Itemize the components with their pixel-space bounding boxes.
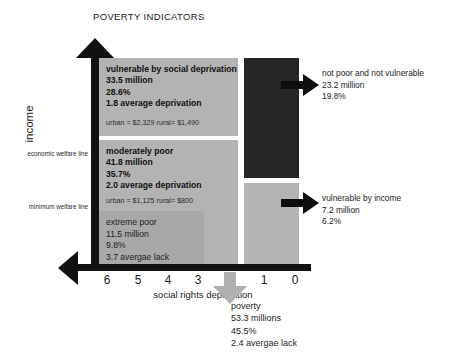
economic-welfare-line-label: economic welfare line [18,150,88,157]
y-axis-line [91,55,99,271]
arrow-shaft [281,81,305,89]
arrow-head [303,74,319,96]
minimum-welfare-line-label: minimum welfare line [12,203,88,210]
block-moderately-poor-title: moderately poor [106,146,202,157]
x-tick-1: 1 [254,273,274,287]
block-extreme-poor-title: extreme poor [106,217,169,229]
block-extreme-poor-percent: 9.8% [106,240,169,252]
x-tick-0: 0 [285,273,305,287]
block-moderately-poor-percent: 35.7% [106,169,202,180]
block-extreme-poor-text: extreme poor 11.5 million 9.8% 3.7 averg… [106,217,169,263]
block-moderately-poor-income-note: urban = $1,125 rural= $800 [106,196,202,206]
block-vulnerable-text: vulnerable by social deprivation 33.5 mi… [106,64,237,128]
arrow-shaft [281,199,305,207]
x-tick-3: 3 [188,273,208,287]
x-axis-line [74,264,311,271]
callout-vulnerable-income-percent: 6.2% [322,216,401,228]
arrow-head [303,192,319,214]
callout-vulnerable-income-millions: 7.2 million [322,205,401,217]
callout-vulnerable-by-income: vulnerable by income 7.2 million 6.2% [322,193,401,228]
callout-not-poor-millions: 23.2 million [322,80,424,92]
callout-not-poor-percent: 19.8% [322,91,424,103]
x-axis-label: social rights deprivation [103,289,303,300]
block-moderately-poor-millions: 41.8 million [106,157,202,168]
poverty-summary: poverty 53.3 millions 45.5% 2.4 avergae … [231,300,297,350]
callout-arrow-right-icon-vulnerable-income [281,192,319,214]
block-vulnerable-spacer [106,110,237,118]
block-vulnerable-deprivation: 1.8 average deprivation [106,98,237,109]
block-moderately-poor-deprivation: 2.0 average deprivation [106,180,202,191]
poverty-summary-deprivation: 2.4 avergae lack [231,337,297,349]
block-extreme-poor: extreme poor 11.5 million 9.8% 3.7 averg… [99,211,204,264]
block-vulnerable-title: vulnerable by social deprivation [106,64,237,75]
x-tick-5: 5 [128,273,148,287]
poverty-indicators-diagram: POVERTY INDICATORS income economic welfa… [0,0,454,362]
poverty-summary-percent: 45.5% [231,325,297,337]
block-vulnerable-income-note: urban = $2,329 rural= $1,490 [106,118,237,128]
block-moderately-poor-text: moderately poor 41.8 million 35.7% 2.0 a… [106,146,202,206]
block-extreme-poor-millions: 11.5 million [106,229,169,241]
block-vulnerable-millions: 33.5 million [106,75,237,86]
block-vulnerable-percent: 28.6% [106,87,237,98]
block-vulnerable-by-social-deprivation: vulnerable by social deprivation 33.5 mi… [99,58,238,136]
poverty-summary-title: poverty [231,300,297,312]
callout-not-poor-and-not-vulnerable: not poor and not vulnerable 23.2 million… [322,68,424,103]
callout-not-poor-title: not poor and not vulnerable [322,68,424,80]
y-axis-label: income [23,89,35,159]
x-tick-4: 4 [158,273,178,287]
block-extreme-poor-deprivation: 3.7 avergae lack [106,252,169,264]
callout-vulnerable-income-title: vulnerable by income [322,193,401,205]
poverty-summary-millions: 53.3 millions [231,312,297,324]
x-tick-6: 6 [97,273,117,287]
callout-arrow-right-icon-not-poor [281,74,319,96]
page-title: POVERTY INDICATORS [93,11,205,22]
